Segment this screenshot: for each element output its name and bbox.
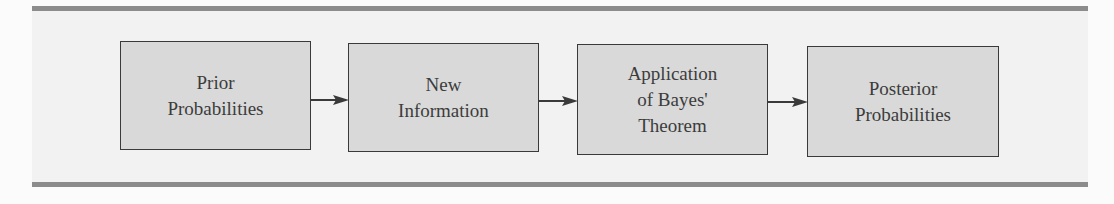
node-posterior-probabilities: Posterior Probabilities [807,46,999,157]
node-label: Application of Bayes' Theorem [628,61,718,139]
arrow-right-icon [539,95,579,107]
top-rule [32,6,1088,11]
arrow-right-icon [311,94,350,106]
bottom-rule [32,182,1088,187]
node-prior-probabilities: Prior Probabilities [120,41,311,150]
node-label: Posterior Probabilities [855,76,951,128]
node-new-information: New Information [348,43,539,152]
arrow-right-icon [768,96,809,108]
node-label: Prior Probabilities [167,70,263,122]
node-application-of-bayes-theorem: Application of Bayes' Theorem [577,44,768,155]
node-label: New Information [398,72,489,124]
